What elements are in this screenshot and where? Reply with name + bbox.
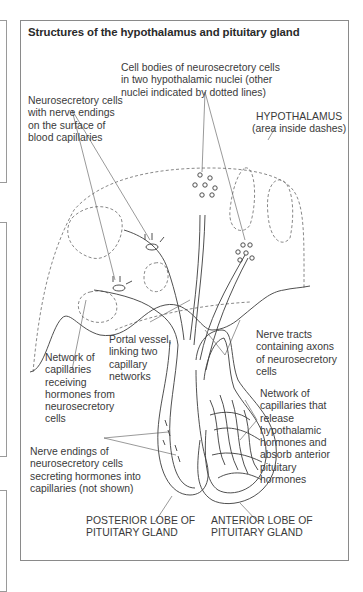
capillary-vessel	[124, 230, 184, 340]
nucleus-outline	[144, 263, 168, 292]
label-nerve-tracts: Nerve tracts containing axons of neurose…	[256, 329, 337, 378]
label-hypothalamus: HYPOTHALAMUS (area inside dashes)	[252, 111, 346, 136]
capillary-nerve-endings	[113, 233, 164, 291]
axon-bundle	[200, 255, 245, 360]
label-network-release: Network of capillaries that release hypo…	[260, 388, 330, 486]
label-cell-bodies: Cell bodies of neurosecretory cells in t…	[121, 62, 280, 99]
neurosecretory-cell-cluster	[193, 173, 254, 262]
nucleus-outline	[68, 207, 122, 259]
axon-bundle	[206, 258, 248, 370]
nucleus-outline	[78, 291, 117, 323]
posterior-lobe-inner	[170, 345, 195, 488]
label-neurosecretory-endings: Neurosecretory cells with nerve endings …	[28, 95, 123, 144]
label-portal-vessel: Portal vessel, linking two capillary net…	[109, 334, 171, 383]
nucleus-outline	[230, 168, 255, 231]
label-nerve-endings-secreting: Nerve endings of neurosecretory cells se…	[30, 446, 141, 495]
label-network-receiving: Network of capillaries receiving hormone…	[45, 352, 115, 426]
nucleus-outline	[267, 180, 292, 242]
capillary-mesh	[210, 395, 262, 480]
label-posterior-lobe: POSTERIOR LOBE OF PITUITARY GLAND	[86, 515, 195, 540]
label-anterior-lobe: ANTERIOR LOBE OF PITUITARY GLAND	[211, 515, 313, 540]
